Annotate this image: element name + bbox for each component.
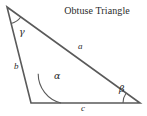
angle-label-gamma: γ <box>19 26 25 37</box>
figure-title: Obtuse Triangle <box>57 5 137 16</box>
triangle-drawing <box>0 0 147 116</box>
side-label-b: b <box>14 61 19 71</box>
obtuse-triangle-figure: Obtuse Triangle a b c α β γ <box>0 0 147 116</box>
side-label-a: a <box>78 41 83 51</box>
side-label-c: c <box>81 103 85 113</box>
angle-arc-gamma <box>11 17 21 24</box>
angle-label-alpha: α <box>54 70 60 81</box>
angle-label-beta: β <box>119 83 125 94</box>
angle-arc-beta <box>123 93 126 103</box>
